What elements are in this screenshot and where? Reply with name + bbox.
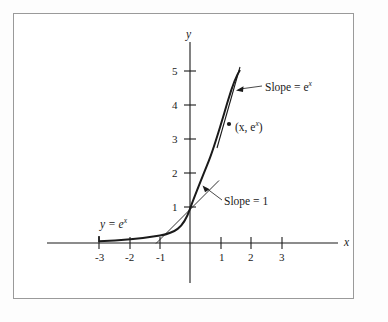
y-tick-label-5: 5 <box>172 66 178 77</box>
y-tick-label-3: 3 <box>172 134 178 145</box>
x-tick-label-3: 3 <box>279 252 285 263</box>
tangent-line-general <box>217 67 240 148</box>
figure-container: -3 -2 -1 1 2 3 1 2 3 4 5 y x Slope = ex … <box>0 0 388 322</box>
annotation-slope-general-text: Slope = e <box>265 81 309 93</box>
arrowhead-slope-general <box>236 86 244 92</box>
annotation-slope-origin: Slope = 1 <box>224 196 268 208</box>
annotation-curve-name-text: y = e <box>100 218 124 230</box>
x-tick-label--3: -3 <box>95 252 104 263</box>
x-tick-label--1: -1 <box>156 252 165 263</box>
y-axis-label: y <box>186 29 191 41</box>
x-tick-label-2: 2 <box>248 252 254 263</box>
y-tick-label-2: 2 <box>172 168 178 179</box>
x-axis-label: x <box>344 237 349 249</box>
x-tick-label--2: -2 <box>125 252 134 263</box>
tangent-line-origin <box>156 181 219 244</box>
y-tick-label-4: 4 <box>172 100 178 111</box>
plot-area <box>0 0 388 322</box>
annotation-curve-name-exponent: x <box>124 216 127 225</box>
annotation-point-coords-close: ) <box>259 121 263 133</box>
annotation-slope-general-exponent: x <box>309 79 312 88</box>
y-tick-label-1: 1 <box>172 202 178 213</box>
annotation-curve-name: y = ex <box>100 217 127 230</box>
annotation-point-coords: (x, ex) <box>235 120 263 133</box>
point-marker-x-ex <box>227 122 231 126</box>
annotation-slope-general: Slope = ex <box>265 80 312 93</box>
x-tick-label-1: 1 <box>219 252 225 263</box>
annotation-point-coords-open: (x, e <box>235 121 255 133</box>
exponential-curve <box>99 70 240 241</box>
